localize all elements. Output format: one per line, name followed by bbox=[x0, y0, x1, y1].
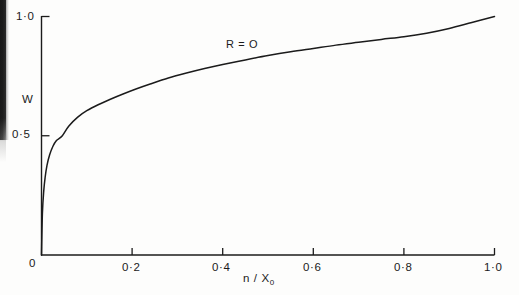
x-axis-title-subscript: 0 bbox=[270, 278, 275, 287]
y-tick-label-0: 0 bbox=[29, 257, 36, 269]
data-curve-R0 bbox=[42, 17, 495, 256]
x-axis-title-text: n / X bbox=[243, 272, 270, 284]
curve-annotation-R0: R = O bbox=[226, 38, 258, 50]
x-tick-label-1-0: 1·0 bbox=[484, 261, 502, 273]
chart-figure: 1·0 0·5 0 W 0·2 0·4 0·6 0·8 1·0 n / X0 R… bbox=[0, 0, 519, 295]
x-axis-ticks bbox=[132, 248, 494, 255]
x-tick-label-0-2: 0·2 bbox=[122, 261, 140, 273]
x-tick-label-0-8: 0·8 bbox=[394, 261, 412, 273]
y-tick-label-0-5: 0·5 bbox=[12, 128, 30, 140]
y-axis-ticks bbox=[42, 17, 50, 136]
plot-canvas bbox=[0, 0, 519, 295]
x-tick-label-0-4: 0·4 bbox=[212, 261, 230, 273]
y-tick-label-1-0: 1·0 bbox=[16, 10, 34, 22]
x-axis-title: n / X0 bbox=[243, 272, 275, 287]
x-tick-label-0-6: 0·6 bbox=[303, 261, 321, 273]
y-axis-title: W bbox=[22, 93, 33, 105]
